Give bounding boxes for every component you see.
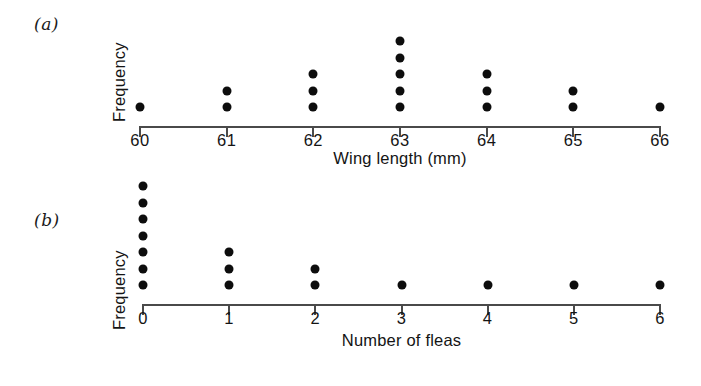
data-point-dot: [139, 248, 148, 257]
x-axis-tick-label: 2: [310, 309, 320, 328]
x-axis-tick-label: 4: [483, 309, 493, 328]
data-point-dot: [222, 86, 231, 95]
data-point-dot: [656, 103, 665, 112]
x-axis-tick-label: 65: [564, 131, 583, 150]
data-point-dot: [139, 215, 148, 224]
x-axis-tick-label: 64: [477, 131, 496, 150]
data-point-dot: [225, 264, 234, 273]
data-point-dot: [222, 103, 231, 112]
x-axis-tick-label: 1: [224, 309, 234, 328]
panel-b: (b) Frequency 0123456Number of fleas: [0, 178, 701, 386]
data-point-dot: [396, 70, 405, 79]
data-point-dot: [482, 70, 491, 79]
data-point-dot: [396, 37, 405, 46]
plot-area-a: 60616263646566Wing length (mm): [0, 0, 701, 180]
data-point-dot: [225, 281, 234, 290]
x-axis-tick-label: 3: [397, 309, 407, 328]
x-axis-tick-label: 60: [130, 131, 149, 150]
x-axis-label: Number of fleas: [342, 331, 461, 350]
data-point-dot: [139, 264, 148, 273]
data-point-dot: [136, 103, 145, 112]
data-point-dot: [225, 248, 234, 257]
x-axis-tick-label: 6: [655, 309, 665, 328]
data-point-dot: [396, 53, 405, 62]
data-point-dot: [656, 281, 665, 290]
data-point-dot: [482, 86, 491, 95]
data-point-dot: [483, 281, 492, 290]
data-point-dot: [569, 103, 578, 112]
data-point-dot: [396, 86, 405, 95]
data-point-dot: [569, 281, 578, 290]
data-point-dot: [397, 281, 406, 290]
data-point-dot: [311, 264, 320, 273]
figure-dot-plots: (a) Frequency 60616263646566Wing length …: [0, 0, 701, 386]
data-point-dot: [569, 86, 578, 95]
data-point-dot: [139, 281, 148, 290]
plot-area-b: 0123456Number of fleas: [0, 178, 701, 386]
data-point-dot: [311, 281, 320, 290]
data-point-dot: [139, 182, 148, 191]
data-point-dot: [482, 103, 491, 112]
x-axis-label: Wing length (mm): [333, 149, 466, 168]
panel-a: (a) Frequency 60616263646566Wing length …: [0, 0, 701, 180]
x-axis-tick-label: 66: [650, 131, 669, 150]
x-axis-tick-label: 62: [304, 131, 323, 150]
data-point-dot: [139, 198, 148, 207]
data-point-dot: [139, 231, 148, 240]
data-point-dot: [309, 103, 318, 112]
x-axis-tick-label: 63: [390, 131, 409, 150]
x-axis-tick-label: 0: [138, 309, 148, 328]
x-axis-tick-label: 5: [569, 309, 579, 328]
x-axis-tick-label: 61: [217, 131, 236, 150]
data-point-dot: [309, 70, 318, 79]
data-point-dot: [396, 103, 405, 112]
data-point-dot: [309, 86, 318, 95]
